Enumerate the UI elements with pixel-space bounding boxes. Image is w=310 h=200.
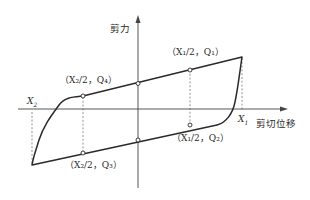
point-q4 — [81, 94, 85, 98]
hysteresis-diagram — [0, 0, 310, 200]
x1-label: X1 — [238, 115, 248, 126]
x-axis-arrow-icon — [280, 107, 288, 112]
annotation-q3: （X₂/2，Q₃） — [65, 161, 122, 170]
point-q2 — [188, 123, 192, 127]
x2-label: X2 — [27, 97, 37, 108]
y-axis-label: 剪力 — [110, 24, 130, 34]
x-axis-label: 剪切位移 — [256, 119, 296, 129]
point-upper-intercept — [136, 82, 140, 86]
hysteresis-loop — [32, 57, 242, 165]
annotation-q2: （X₁/2，Q₂） — [172, 134, 229, 143]
point-q3 — [81, 151, 85, 155]
point-q1 — [188, 68, 192, 72]
y-axis-arrow-icon — [136, 15, 141, 23]
annotation-q4: （X₂/2，Q₄） — [60, 76, 117, 85]
point-lower-intercept — [136, 138, 140, 142]
annotation-q1: （X₁/2，Q₁） — [167, 48, 224, 57]
